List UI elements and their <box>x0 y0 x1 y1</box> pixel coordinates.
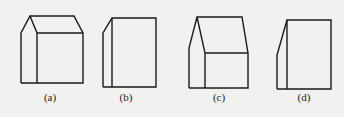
figure-c-label: (c) <box>204 91 234 103</box>
figure-panel: (a) (b) (c) (d) <box>0 0 344 117</box>
figure-b-label: (b) <box>111 91 141 103</box>
figure-a-label: (a) <box>35 91 65 103</box>
figure-d-shape <box>277 20 331 89</box>
figure-c-shape <box>189 17 248 88</box>
figure-b-shape <box>103 18 156 87</box>
figure-a-shape <box>21 16 83 83</box>
figure-d-label: (d) <box>289 91 319 103</box>
